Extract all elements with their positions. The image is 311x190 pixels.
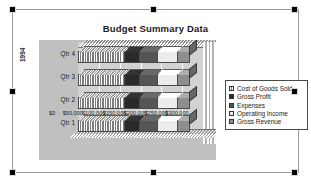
bar-segment[interactable] (140, 51, 158, 63)
selection-handle-top-right[interactable] (291, 6, 298, 13)
x-tick-label: $300,000 (162, 110, 192, 117)
selection-handle-middle-right[interactable] (291, 88, 298, 95)
bar-segment[interactable] (125, 74, 141, 86)
legend-item[interactable]: Gross Revenue (229, 118, 304, 125)
selection-handle-middle-left[interactable] (9, 88, 16, 95)
bar-segment[interactable] (140, 74, 158, 86)
selection-handle-bottom-right[interactable] (291, 169, 298, 176)
legend-swatch (229, 86, 234, 91)
legend-swatch (229, 103, 234, 108)
x-axis-tick-labels: $0$50,000$100,000$150,000$200,000$250,00… (39, 110, 199, 130)
bar-segment[interactable] (125, 51, 141, 63)
bar-segment[interactable] (140, 97, 158, 109)
bar-segment[interactable] (178, 97, 191, 109)
legend-label: Operating Income (237, 110, 288, 117)
chart-title: Budget Summary Data (13, 23, 298, 34)
legend-swatch (229, 119, 234, 124)
stacked-bar[interactable] (78, 97, 190, 109)
bar-segment[interactable] (78, 74, 125, 86)
y-axis-title: 1994 (19, 48, 26, 62)
bar-segment[interactable] (78, 97, 125, 109)
selection-handle-top-center[interactable] (150, 6, 157, 13)
legend-label: Expenses (237, 102, 265, 109)
legend-item[interactable]: Expenses (229, 102, 304, 109)
selection-handle-top-left[interactable] (9, 6, 16, 13)
stacked-bar[interactable] (78, 74, 190, 86)
stacked-bar[interactable] (78, 51, 190, 63)
legend-item[interactable]: Operating Income (229, 110, 304, 117)
legend-swatch (229, 94, 234, 99)
legend-label: Gross Revenue (237, 118, 281, 125)
bar-segment[interactable] (158, 74, 178, 86)
selection-handle-bottom-left[interactable] (9, 169, 16, 176)
chart-object-frame[interactable]: Budget Summary Data 1994 Qtr 4Qtr 3Qtr 2… (12, 9, 299, 173)
legend-label: Gross Profit (237, 93, 271, 100)
bar-segment[interactable] (178, 74, 191, 86)
plot-area[interactable]: Qtr 4Qtr 3Qtr 2Qtr 1 (39, 40, 216, 160)
bar-segment[interactable] (78, 51, 125, 63)
legend-swatch (229, 111, 234, 116)
selection-handle-bottom-center[interactable] (150, 169, 157, 176)
bar-segment[interactable] (178, 51, 191, 63)
bar-segment[interactable] (158, 51, 178, 63)
category-label: Qtr 2 (61, 96, 75, 103)
legend-label: Cost of Goods Sold (237, 85, 292, 92)
category-label: Qtr 4 (61, 50, 75, 57)
bar-segment[interactable] (125, 97, 141, 109)
bar-segment[interactable] (158, 97, 178, 109)
category-label: Qtr 3 (61, 73, 75, 80)
